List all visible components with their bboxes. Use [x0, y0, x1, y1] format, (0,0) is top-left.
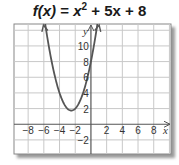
x-tick-label: 6 — [135, 125, 141, 136]
y-tick-label: 10 — [78, 41, 90, 52]
y-tick-label: 8 — [83, 57, 89, 68]
x-tick-label: −8 — [22, 125, 34, 136]
x-tick-label: 8 — [151, 125, 157, 136]
y-axis-label: y — [82, 25, 88, 37]
y-tick-label: 2 — [83, 104, 89, 115]
x-tick-label: −4 — [54, 125, 66, 136]
y-tick-label: −2 — [78, 135, 90, 146]
y-tick-label: 4 — [83, 88, 89, 99]
x-axis-label: x — [162, 124, 168, 136]
x-tick-label: 4 — [120, 125, 126, 136]
y-tick-label: 6 — [83, 72, 89, 83]
x-tick-label: −6 — [38, 125, 50, 136]
x-tick-label: 2 — [104, 125, 110, 136]
graph-plot: −8−6−4−22468108642−2 x y — [0, 0, 179, 165]
